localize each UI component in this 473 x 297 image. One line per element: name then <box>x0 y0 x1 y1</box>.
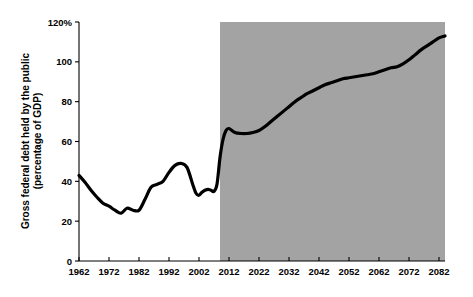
y-tick-label: 20 <box>61 216 72 227</box>
y-tick-label: 80 <box>61 96 72 107</box>
y-tick-label: 100 <box>56 56 72 67</box>
x-tick-label: 2002 <box>188 266 209 277</box>
x-tick-label: 2032 <box>278 266 299 277</box>
y-axis-label-group: Gross federal debt held by the public (p… <box>20 52 43 229</box>
y-tick-label: 40 <box>61 176 72 187</box>
y-tick-label: 0 <box>67 256 72 267</box>
x-tick-label: 2042 <box>308 266 329 277</box>
debt-projection-line-chart: 020406080100120% 19621972198219922002201… <box>0 0 473 297</box>
y-tick-label: 60 <box>61 136 72 147</box>
x-tick-label: 2072 <box>398 266 419 277</box>
chart-figure: 020406080100120% 19621972198219922002201… <box>0 0 473 297</box>
x-tick-label: 1982 <box>128 266 149 277</box>
x-tick-label: 1962 <box>68 266 89 277</box>
y-axis-label-line1: Gross federal debt held by the public <box>20 52 31 229</box>
x-tick-label: 2012 <box>218 266 239 277</box>
y-axis-ticks: 020406080100120% <box>48 17 79 267</box>
x-tick-label: 2022 <box>248 266 269 277</box>
x-tick-label: 2082 <box>428 266 449 277</box>
x-tick-label: 1972 <box>98 266 119 277</box>
x-tick-label: 2052 <box>338 266 359 277</box>
x-tick-label: 2062 <box>368 266 389 277</box>
y-axis-label-line2: (percentage of GDP) <box>32 93 43 190</box>
y-tick-label: 120% <box>48 17 73 28</box>
x-tick-label: 1992 <box>158 266 179 277</box>
